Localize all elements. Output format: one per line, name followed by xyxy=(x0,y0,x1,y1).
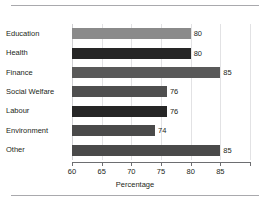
x-tick-85 xyxy=(220,162,221,166)
bar xyxy=(72,106,167,117)
bar-row: 85 xyxy=(72,141,250,160)
bottom-divider-rule xyxy=(11,195,259,196)
bar-value-label: 85 xyxy=(223,67,231,78)
x-tick-label-65: 65 xyxy=(97,167,105,177)
bar xyxy=(72,125,155,136)
bar-series: 80808576767485 xyxy=(72,24,250,160)
bar xyxy=(72,86,167,97)
category-label-health: Health xyxy=(6,48,70,58)
category-label-environment: Environment xyxy=(6,126,70,136)
bar-value-label: 74 xyxy=(158,125,166,136)
category-label-labour: Labour xyxy=(6,106,70,116)
category-axis-labels: EducationHealthFinanceSocial WelfareLabo… xyxy=(6,24,70,160)
x-tick-60 xyxy=(72,162,73,166)
x-axis-title: Percentage xyxy=(0,180,270,190)
bar-value-label: 80 xyxy=(194,48,202,59)
x-tick-75 xyxy=(161,162,162,166)
bar-row: 80 xyxy=(72,43,250,62)
x-tick-65 xyxy=(102,162,103,166)
category-label-finance: Finance xyxy=(6,68,70,78)
plot-area: 80808576767485 xyxy=(72,24,250,160)
bar-value-label: 80 xyxy=(194,28,202,39)
bar-row: 76 xyxy=(72,102,250,121)
x-tick-70 xyxy=(131,162,132,166)
bar-row: 80 xyxy=(72,24,250,43)
bar-row: 76 xyxy=(72,82,250,101)
x-tick-label-60: 60 xyxy=(68,167,76,177)
bar xyxy=(72,145,220,156)
x-tick-label-85: 85 xyxy=(216,167,224,177)
top-divider-rule xyxy=(11,5,259,6)
gridline-90 xyxy=(250,24,251,160)
x-tick-90 xyxy=(250,162,251,166)
x-tick-label-75: 75 xyxy=(157,167,165,177)
category-label-other: Other xyxy=(6,145,70,155)
bar xyxy=(72,28,191,39)
bar xyxy=(72,67,220,78)
x-tick-label-80: 80 xyxy=(186,167,194,177)
bar-value-label: 85 xyxy=(223,145,231,156)
bar-chart-figure: EducationHealthFinanceSocial WelfareLabo… xyxy=(0,0,270,203)
category-label-social-welfare: Social Welfare xyxy=(6,87,70,97)
x-tick-label-70: 70 xyxy=(127,167,135,177)
bar-value-label: 76 xyxy=(170,106,178,117)
bar-row: 74 xyxy=(72,121,250,140)
bar xyxy=(72,48,191,59)
bar-value-label: 76 xyxy=(170,86,178,97)
x-tick-80 xyxy=(191,162,192,166)
category-label-education: Education xyxy=(6,29,70,39)
bar-row: 85 xyxy=(72,63,250,82)
